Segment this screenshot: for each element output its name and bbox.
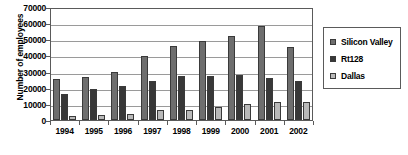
- bar-group: [139, 9, 168, 120]
- bar-group: [51, 9, 80, 120]
- bar: [127, 114, 134, 120]
- y-tick-label: 60000: [6, 20, 46, 29]
- bar: [82, 77, 89, 120]
- bar-group: [80, 9, 109, 120]
- bar-group: [109, 9, 138, 120]
- x-tick-label: 1997: [143, 126, 161, 136]
- bar: [207, 76, 214, 120]
- y-tick-label: 0: [6, 117, 46, 126]
- x-tick-mark: [167, 121, 168, 125]
- bar: [149, 81, 156, 120]
- x-tick-label: 2000: [231, 126, 249, 136]
- y-tick-mark: [46, 73, 50, 74]
- x-tick-label: 1995: [85, 126, 103, 136]
- x-tick-label: 2002: [289, 126, 307, 136]
- bar: [90, 89, 97, 120]
- bar: [303, 102, 310, 120]
- bar: [69, 116, 76, 120]
- x-tick-mark: [284, 121, 285, 125]
- x-tick-mark: [108, 121, 109, 125]
- bar-chart-figure: Number of employees 01000020000300004000…: [0, 0, 408, 155]
- bar: [98, 115, 105, 120]
- y-tick-mark: [46, 40, 50, 41]
- legend-swatch-icon: [330, 39, 336, 45]
- x-tick-label: 1999: [202, 126, 220, 136]
- y-tick-mark: [46, 56, 50, 57]
- y-tick-label: 30000: [6, 68, 46, 77]
- bar: [61, 94, 68, 120]
- bar: [53, 79, 60, 120]
- y-tick-mark: [46, 105, 50, 106]
- bar: [215, 107, 222, 120]
- x-tick-mark: [196, 121, 197, 125]
- y-tick-label: 40000: [6, 52, 46, 61]
- y-axis-tick-labels: 010000200003000040000500006000070000: [6, 8, 46, 121]
- x-tick-mark: [50, 121, 51, 125]
- x-tick-mark: [313, 121, 314, 125]
- bar: [141, 56, 148, 120]
- bar-group: [226, 9, 255, 120]
- bar: [236, 75, 243, 120]
- y-tick-mark: [46, 24, 50, 25]
- bar: [186, 110, 193, 120]
- bar: [274, 102, 281, 120]
- x-tick-label: 2001: [260, 126, 278, 136]
- legend-swatch-icon: [330, 73, 336, 79]
- y-tick-label: 10000: [6, 101, 46, 110]
- legend-swatch-icon: [330, 56, 336, 62]
- legend-item[interactable]: Silicon Valley: [330, 33, 400, 50]
- bar-group: [256, 9, 285, 120]
- x-tick-label: 1998: [172, 126, 190, 136]
- legend-item[interactable]: Rt128: [330, 50, 400, 67]
- x-tick-mark: [255, 121, 256, 125]
- plot-area: [50, 8, 313, 121]
- bar: [178, 76, 185, 120]
- bar: [111, 72, 118, 120]
- bar: [287, 47, 294, 120]
- y-tick-label: 20000: [6, 84, 46, 93]
- x-tick-mark: [138, 121, 139, 125]
- bar: [228, 36, 235, 120]
- x-tick-label: 1996: [114, 126, 132, 136]
- bar-group: [197, 9, 226, 120]
- bar-group: [285, 9, 314, 120]
- y-tick-mark: [46, 8, 50, 9]
- bar: [295, 81, 302, 120]
- chart-legend: Silicon ValleyRt128Dallas: [323, 27, 401, 89]
- bar: [170, 46, 177, 120]
- x-axis-tick-labels: 199419951996199719981999200020012002: [50, 126, 313, 142]
- x-tick-label: 1994: [56, 126, 74, 136]
- legend-label: Dallas: [341, 71, 365, 81]
- bar: [266, 78, 273, 120]
- bar: [199, 41, 206, 120]
- bar: [258, 26, 265, 120]
- legend-label: Silicon Valley: [341, 37, 393, 47]
- y-tick-label: 70000: [6, 4, 46, 13]
- bar: [157, 110, 164, 120]
- legend-item[interactable]: Dallas: [330, 67, 400, 84]
- bars-layer: [51, 9, 312, 120]
- x-tick-mark: [225, 121, 226, 125]
- bar: [119, 86, 126, 120]
- x-tick-mark: [79, 121, 80, 125]
- bar-group: [168, 9, 197, 120]
- bar: [244, 104, 251, 120]
- y-tick-mark: [46, 89, 50, 90]
- legend-label: Rt128: [341, 54, 363, 64]
- y-tick-label: 50000: [6, 36, 46, 45]
